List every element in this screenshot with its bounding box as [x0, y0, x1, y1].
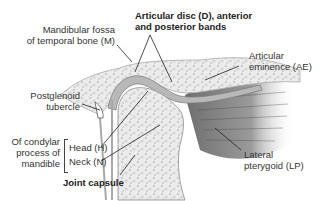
label-articular-disc-line2: and posterior bands: [135, 21, 252, 32]
label-mandibular-fossa: Mandibular fossa of temporal bone (M): [20, 24, 115, 46]
label-articular-disc-line1: Articular disc (D), anterior: [135, 10, 252, 21]
label-articular-eminence: Articular eminence (AE): [249, 50, 312, 72]
label-neck: Neck (N): [69, 156, 106, 167]
label-mandibular-fossa-line1: Mandibular fossa: [20, 24, 115, 35]
label-mandibular-fossa-line2: of temporal bone (M): [20, 35, 115, 46]
label-lateral-pterygoid: Lateral pterygoid (LP): [244, 149, 304, 171]
label-head: Head (H): [69, 142, 108, 153]
label-articular-eminence-line2: eminence (AE): [249, 61, 312, 72]
label-postglenoid-tubercle: Postglenoid tubercle: [20, 90, 80, 112]
label-condylar-line3: mandible: [5, 158, 60, 169]
mandible-condyle: [118, 88, 185, 200]
label-lateral-pterygoid-line2: pterygoid (LP): [244, 160, 304, 171]
label-articular-disc: Articular disc (D), anterior and posteri…: [135, 10, 252, 32]
label-condylar-process: Of condylar process of mandible: [5, 136, 60, 169]
condylar-bracket: [64, 139, 68, 173]
label-joint-capsule: Joint capsule: [63, 177, 124, 188]
label-condylar-line1: Of condylar: [5, 136, 60, 147]
label-postglenoid-line1: Postglenoid: [20, 90, 80, 101]
label-lateral-pterygoid-line1: Lateral: [244, 149, 304, 160]
label-condylar-line2: process of: [5, 147, 60, 158]
label-articular-eminence-line1: Articular: [249, 50, 312, 61]
label-postglenoid-line2: tubercle: [20, 101, 80, 112]
